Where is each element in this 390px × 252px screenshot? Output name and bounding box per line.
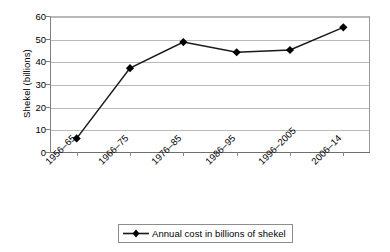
x-tick-mark bbox=[77, 152, 78, 156]
plot-area bbox=[50, 16, 370, 152]
y-tick-label: 50 bbox=[4, 33, 46, 44]
gridline bbox=[51, 62, 369, 63]
gridline bbox=[51, 130, 369, 131]
y-tick-label: 20 bbox=[4, 101, 46, 112]
x-tick-mark bbox=[183, 152, 184, 156]
line-chart-figure: Shekel (billions) 0102030405060 1956–651… bbox=[0, 0, 390, 252]
gridline bbox=[51, 108, 369, 109]
legend-label: Annual cost in billions of shekel bbox=[152, 228, 286, 239]
y-tick-label: 30 bbox=[4, 79, 46, 90]
y-tick-label: 40 bbox=[4, 56, 46, 67]
legend-marker-icon bbox=[123, 228, 149, 239]
x-tick-mark bbox=[343, 152, 344, 156]
x-tick-mark bbox=[130, 152, 131, 156]
gridline bbox=[51, 40, 369, 41]
y-tick-label: 10 bbox=[4, 124, 46, 135]
gridline bbox=[51, 85, 369, 86]
y-tick-label: 60 bbox=[4, 11, 46, 22]
legend: Annual cost in billions of shekel bbox=[118, 224, 293, 243]
x-tick-mark bbox=[290, 152, 291, 156]
y-tick-label: 0 bbox=[4, 147, 46, 158]
y-axis-ticks: 0102030405060 bbox=[0, 0, 46, 252]
gridline bbox=[51, 17, 369, 18]
x-tick-mark bbox=[237, 152, 238, 156]
